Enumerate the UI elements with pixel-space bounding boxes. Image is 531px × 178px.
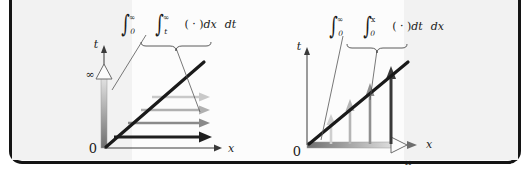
inner-integral-lower: t [164,27,167,36]
diagonal-line [309,62,408,144]
x-axis-arrowhead [214,145,222,152]
inner-integral-upper: x [371,15,375,24]
ray-2-arrowhead [199,106,210,115]
origin-label: 0 [293,144,301,159]
outer-integral-upper: ∞ [337,15,343,24]
outer-integral-lower: 0 [338,29,343,38]
outer-differential: dx [431,20,444,33]
ray-3-arrowhead [199,119,210,128]
inner-integral-brace [347,44,407,53]
t-axis-label: t [94,38,99,51]
t-sweep-gradient-bar [101,78,107,148]
inner-integral-brace [141,42,211,51]
inner-integral-upper: ∞ [163,13,169,22]
inner-integral-leader [176,48,200,112]
x-axis-label: x [426,138,433,151]
panel-left: t x 0 ∞ ∫∞0 ∫∞t ( · )dx dt [0,0,266,178]
integrand: ( · ) [392,20,411,33]
integrand: ( · ) [184,18,203,31]
x-axis-arrowhead [407,141,417,149]
t-axis-label: t [297,40,302,53]
outer-differential: dt [225,18,236,31]
formula-left: ∫∞0 ∫∞t ( · )dx dt [120,14,236,35]
t-sweep-hollow-arrowhead [96,64,112,79]
inner-integration-rays [114,93,212,143]
inner-integration-rays [327,66,397,144]
origin-label: 0 [89,141,97,156]
t-axis-arrowhead [304,47,310,55]
ray-1-arrowhead [199,93,210,102]
infinity-label: ∞ [403,156,412,169]
t-axis-arrowhead [101,45,107,53]
x-axis-label: x [228,142,235,155]
infinity-label: ∞ [85,68,94,81]
inner-integral-lower: 0 [370,29,375,38]
ray-4-arrowhead [199,132,212,143]
outer-integral-lower: 0 [130,27,135,36]
inner-differential: dx [203,18,216,31]
x-sweep-hollow-arrowhead [391,137,407,153]
panel-right: t x 0 ∞ ∫∞0 ∫x0 ( · )dt dx [265,0,531,178]
formula-right: ∫∞0 ∫x0 ( · )dt dx [328,16,444,37]
diagonal-line [106,62,204,147]
inner-differential: dt [411,20,422,33]
outer-integral-upper: ∞ [129,13,135,22]
